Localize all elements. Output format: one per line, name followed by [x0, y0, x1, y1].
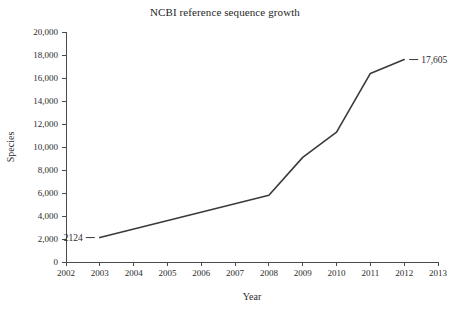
- x-axis-ticks: 2002200320042005200620072008200920102011…: [57, 262, 448, 278]
- x-tick-label: 2010: [328, 268, 347, 278]
- chart-figure: NCBI reference sequence growth 02,0004,0…: [0, 0, 450, 310]
- data-point-label: 2124: [64, 233, 83, 243]
- y-axis-ticks: 02,0004,0006,0008,00010,00012,00014,0001…: [33, 27, 66, 267]
- y-tick-label: 2,000: [38, 234, 59, 244]
- y-axis-title: Species: [5, 132, 16, 163]
- y-tick-label: 8,000: [38, 165, 59, 175]
- y-tick-label: 10,000: [33, 142, 58, 152]
- x-tick-label: 2011: [362, 268, 380, 278]
- y-tick-label: 12,000: [33, 119, 58, 129]
- data-point-label: 17,605: [421, 55, 447, 65]
- y-tick-label: 0: [54, 257, 59, 267]
- y-tick-label: 18,000: [33, 50, 58, 60]
- y-tick-label: 6,000: [38, 188, 59, 198]
- x-tick-label: 2007: [226, 268, 245, 278]
- y-tick-label: 16,000: [33, 73, 58, 83]
- x-tick-label: 2006: [192, 268, 211, 278]
- x-tick-label: 2003: [91, 268, 110, 278]
- x-tick-label: 2008: [260, 268, 279, 278]
- x-tick-label: 2005: [158, 268, 177, 278]
- data-series-line: [100, 60, 404, 238]
- x-tick-label: 2013: [429, 268, 448, 278]
- x-tick-label: 2004: [125, 268, 144, 278]
- y-tick-label: 4,000: [38, 211, 59, 221]
- x-tick-label: 2009: [294, 268, 313, 278]
- x-tick-label: 2012: [395, 268, 413, 278]
- x-tick-label: 2002: [57, 268, 75, 278]
- y-tick-label: 14,000: [33, 96, 58, 106]
- x-axis-title: Year: [243, 291, 262, 302]
- line-chart-plot: 02,0004,0006,0008,00010,00012,00014,0001…: [0, 0, 450, 310]
- y-tick-label: 20,000: [33, 27, 58, 37]
- data-point-annotations: 212417,605: [64, 55, 448, 243]
